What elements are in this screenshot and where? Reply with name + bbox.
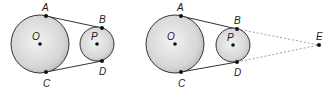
point-b [100, 26, 104, 30]
point-c [44, 70, 48, 74]
label-b: B [234, 15, 241, 26]
figure-right: A C O P B D E [146, 2, 323, 89]
point-a [179, 14, 183, 18]
center-p-dot [231, 43, 235, 47]
center-o-dot [38, 42, 42, 46]
label-o: O [32, 31, 40, 42]
point-b [235, 27, 239, 31]
label-d: D [234, 67, 241, 78]
point-d [235, 60, 239, 64]
label-c: C [178, 78, 186, 89]
label-e: E [316, 31, 323, 42]
label-p: P [91, 31, 98, 42]
center-p-dot [95, 42, 99, 46]
label-o: O [167, 31, 175, 42]
label-a: A [176, 2, 184, 13]
label-p: P [227, 32, 234, 43]
point-c [179, 70, 183, 74]
label-b: B [99, 14, 106, 25]
label-a: A [41, 2, 49, 13]
center-o-dot [173, 42, 177, 46]
tangent-circles-diagram: A C O P B D A C O P B D E [0, 0, 331, 94]
point-e [317, 43, 321, 47]
label-d: D [99, 66, 106, 77]
point-a [44, 14, 48, 18]
label-c: C [43, 78, 51, 89]
figure-left: A C O P B D [11, 2, 114, 89]
point-d [100, 59, 104, 63]
